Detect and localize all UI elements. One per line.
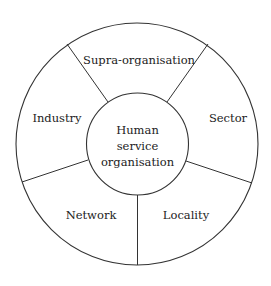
context-ring-diagram: Supra-organisation Sector Locality Netwo… (0, 0, 271, 286)
segment-label-supra-organisation: Supra-organisation (83, 53, 196, 67)
center-label-line-2: service (117, 139, 159, 153)
divider-sector-locality (186, 161, 252, 183)
segment-label-network: Network (66, 208, 118, 222)
divider-industry-network (22, 160, 88, 182)
segment-label-industry: Industry (32, 111, 82, 125)
center-label-line-3: organisation (101, 155, 175, 169)
segment-label-locality: Locality (163, 208, 210, 222)
center-label-line-1: Human (116, 123, 159, 137)
segment-label-sector: Sector (209, 111, 248, 125)
